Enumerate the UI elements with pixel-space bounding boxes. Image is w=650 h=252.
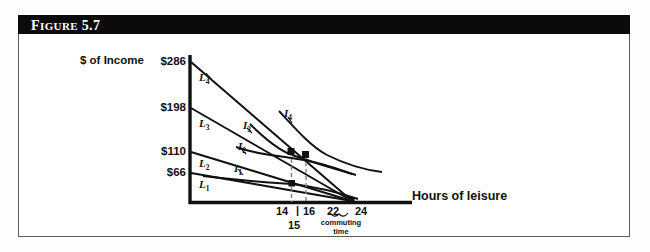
y-tick-286: $286 (118, 55, 186, 67)
chart-plot-area: $ of Income Hours of leisure $286 $198 $… (0, 0, 650, 252)
tangency-point-i4 (302, 151, 309, 158)
tangency-point-i3 (288, 148, 295, 155)
chart-svg (0, 0, 650, 252)
series-label-l2: L2 (199, 157, 209, 172)
series-label-i2: I2 (238, 140, 246, 155)
series-label-i1: I1 (234, 162, 242, 177)
time-word: time (333, 227, 348, 236)
budget-line-l4 (191, 62, 352, 201)
tangency-point-convergence (348, 197, 355, 204)
x-annotation-15: 15 (288, 219, 300, 231)
x-axis-title: Hours of leisure (412, 189, 507, 203)
y-tick-110: $110 (118, 145, 186, 157)
indifference-curve-i4 (279, 111, 382, 172)
series-label-l1: L1 (199, 178, 209, 193)
x-tick-24: 24 (355, 205, 367, 217)
x-tick-14: 14 (276, 205, 288, 217)
x-tick-16: 16 (303, 205, 315, 217)
series-label-l3: L3 (199, 117, 209, 132)
series-label-i3: I3 (243, 119, 251, 134)
series-label-i4: I4 (284, 107, 292, 122)
y-tick-198: $198 (118, 101, 186, 113)
tangency-point-i1 (289, 180, 296, 187)
y-tick-66: $66 (118, 166, 186, 178)
series-label-l4: L4 (199, 71, 209, 86)
figure-page: FIGURE 5.7 (0, 0, 650, 252)
x-annotation-commuting: commuting time (305, 219, 377, 236)
x-tick-separator: | (296, 204, 299, 216)
indifference-curve-i3 (250, 124, 356, 175)
x-tick-22: 22 (327, 205, 339, 217)
